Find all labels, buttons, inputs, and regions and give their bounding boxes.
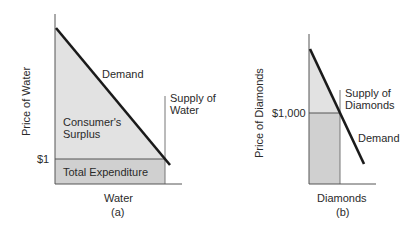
supply-label-b-2: Diamonds xyxy=(345,99,395,111)
surplus-label-2: Surplus xyxy=(63,128,101,140)
price-tick-b: $1,000 xyxy=(272,107,306,119)
panel-a: Demand Supply of Water Consumer's Surplu… xyxy=(20,14,217,218)
caption-a: (a) xyxy=(111,206,124,218)
demand-label-a: Demand xyxy=(102,68,144,80)
supply-label-a-2: Water xyxy=(170,104,199,116)
surplus-label-1: Consumer's xyxy=(63,116,122,128)
x-axis-label-a: Water xyxy=(104,192,133,204)
expenditure-label: Total Expenditure xyxy=(63,166,148,178)
total-expenditure-area-b xyxy=(309,113,340,184)
demand-label-b: Demand xyxy=(358,132,400,144)
y-axis-label-a: Price of Water xyxy=(20,66,32,136)
y-axis-label-b: Price of Diamonds xyxy=(253,68,265,158)
diagram-canvas: Demand Supply of Water Consumer's Surplu… xyxy=(0,0,420,234)
price-tick-a: $1 xyxy=(37,153,49,165)
supply-label-b-1: Supply of xyxy=(345,87,392,99)
panel-b: Supply of Diamonds Demand $1,000 Diamond… xyxy=(253,34,400,218)
supply-label-a-1: Supply of xyxy=(170,92,217,104)
caption-b: (b) xyxy=(336,206,349,218)
x-axis-label-b: Diamonds xyxy=(317,192,367,204)
